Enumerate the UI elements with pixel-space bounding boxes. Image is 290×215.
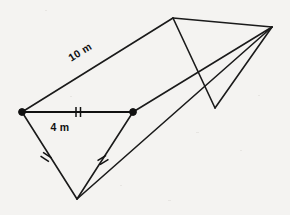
front-left-vertex-dot	[19, 109, 26, 116]
base-dimension-label: 4 m	[51, 121, 70, 133]
diagram-canvas: 10 m 4 m	[0, 0, 290, 215]
diagram-background	[0, 0, 290, 215]
triangular-prism-figure: 10 m 4 m	[0, 0, 290, 215]
front-right-vertex-dot	[130, 109, 137, 116]
